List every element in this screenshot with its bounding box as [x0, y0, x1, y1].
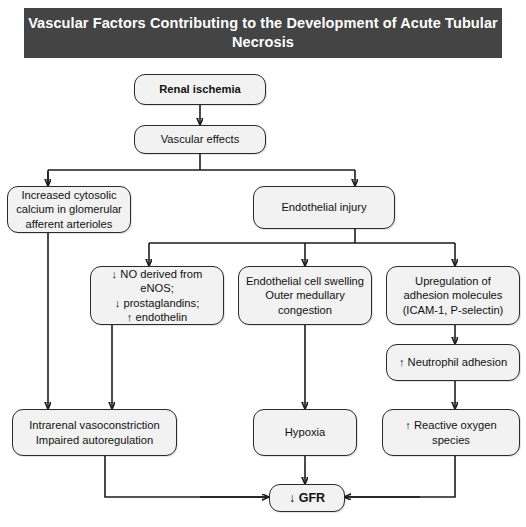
node-no-enos[interactable]: ↓ NO derived from eNOS; ↓ prostaglandins… — [90, 266, 224, 325]
node-renal-ischemia[interactable]: Renal ischemia — [134, 74, 266, 105]
node-adhesion-molecules[interactable]: Upregulation of adhesion molecules (ICAM… — [386, 266, 520, 325]
flowchart-canvas: Vascular Factors Contributing to the Dev… — [0, 0, 526, 527]
edge-endothelial-bus — [149, 229, 455, 243]
node-hypoxia[interactable]: Hypoxia — [253, 409, 357, 456]
node-hypoxia-label: Hypoxia — [259, 425, 351, 439]
node-gfr-label: ↓ GFR — [275, 491, 339, 505]
node-vascular-effects-label: Vascular effects — [140, 132, 260, 146]
node-endothelial-injury-label: Endothelial injury — [259, 200, 389, 214]
node-increased-calcium[interactable]: Increased cytosolic calcium in glomerula… — [7, 186, 131, 233]
node-increased-calcium-label: Increased cytosolic calcium in glomerula… — [13, 188, 125, 231]
node-reactive-oxygen-species[interactable]: ↑ Reactive oxygen species — [382, 409, 520, 456]
node-intrarenal-vasoconstriction[interactable]: Intrarenal vasoconstriction Impaired aut… — [12, 409, 177, 456]
node-cell-swelling-label: Endothelial cell swelling Outer medullar… — [244, 274, 366, 317]
diagram-title-bar: Vascular Factors Contributing to the Dev… — [24, 8, 502, 58]
edge-ros-to-gfr-path — [345, 456, 455, 497]
node-neutrophil-adhesion[interactable]: ↑ Neutrophil adhesion — [386, 344, 520, 381]
node-vascular-effects[interactable]: Vascular effects — [134, 125, 266, 154]
node-endothelial-injury[interactable]: Endothelial injury — [253, 186, 395, 229]
edge-vascular-bus — [48, 154, 355, 186]
page-title: Vascular Factors Contributing to the Dev… — [24, 14, 502, 52]
node-neutrophil-adhesion-label: ↑ Neutrophil adhesion — [392, 355, 514, 369]
node-intrarenal-vasoconstriction-label: Intrarenal vasoconstriction Impaired aut… — [18, 418, 171, 447]
node-cell-swelling[interactable]: Endothelial cell swelling Outer medullar… — [238, 266, 372, 325]
node-renal-ischemia-label: Renal ischemia — [140, 82, 260, 96]
edge-vasoconstriction-to-gfr-path — [105, 456, 268, 497]
node-gfr[interactable]: ↓ GFR — [269, 484, 345, 512]
node-no-enos-label: ↓ NO derived from eNOS; ↓ prostaglandins… — [96, 267, 218, 325]
node-adhesion-molecules-label: Upregulation of adhesion molecules (ICAM… — [392, 274, 514, 317]
node-reactive-oxygen-species-label: ↑ Reactive oxygen species — [388, 418, 514, 447]
